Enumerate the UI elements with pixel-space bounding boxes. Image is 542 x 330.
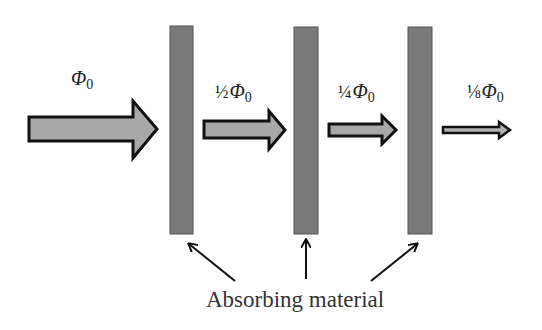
eighth-flux-arrow — [443, 122, 510, 138]
incident-flux-arrow — [29, 101, 157, 158]
phi-symbol: Φ — [230, 80, 245, 102]
flux-label-half: ½Φ0 — [215, 80, 252, 106]
flux-label-quarter: ¼Φ0 — [338, 80, 375, 106]
flux-subscript: 0 — [86, 77, 93, 92]
flux-fraction: ¼ — [338, 82, 352, 102]
phi-symbol: Φ — [71, 67, 86, 89]
flux-fraction: ⅛ — [467, 82, 481, 102]
flux-label-0: Φ0 — [70, 67, 93, 93]
pointer-arrow-1 — [189, 244, 235, 281]
phi-symbol: Φ — [482, 80, 497, 102]
phi-symbol: Φ — [353, 80, 368, 102]
diagram-graphics — [0, 0, 542, 330]
flux-fraction: ½ — [215, 82, 229, 102]
flux-subscript: 0 — [368, 90, 375, 105]
absorber-slab-3 — [408, 27, 432, 234]
pointer-arrow-3 — [371, 244, 417, 281]
flux-subscript: 0 — [245, 90, 252, 105]
absorber-slab-1 — [170, 26, 193, 234]
flux-label-eighth: ⅛Φ0 — [467, 80, 504, 106]
absorber-slab-2 — [294, 27, 318, 234]
half-flux-arrow — [204, 111, 285, 149]
diagram-canvas: Φ0 ½Φ0 ¼Φ0 ⅛Φ0 Absorbing material — [0, 0, 542, 330]
flux-subscript: 0 — [497, 90, 504, 105]
absorbing-material-caption: Absorbing material — [206, 287, 384, 313]
quarter-flux-arrow — [329, 116, 396, 144]
